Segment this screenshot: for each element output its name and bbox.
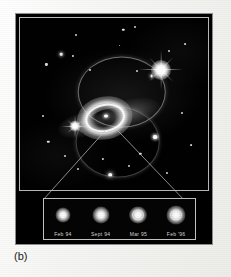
bright-star-left	[61, 112, 89, 140]
figure-panel-b: Feb 94Sept 94Mar 95Feb '96 (b)	[0, 0, 231, 277]
field-star	[42, 115, 44, 117]
field-star	[150, 75, 153, 78]
field-star	[77, 168, 79, 170]
inset-epoch-cell: Mar 95	[120, 199, 158, 239]
field-star	[119, 45, 121, 47]
field-star	[60, 53, 63, 56]
field-star	[134, 26, 136, 28]
field-star	[128, 165, 130, 167]
field-star	[166, 172, 168, 174]
field-star	[109, 173, 112, 176]
debris-blob-ring	[132, 210, 144, 221]
inset-epoch-cell: Feb 94	[44, 199, 82, 239]
supernova-debris-blob	[92, 207, 109, 224]
sky-field	[20, 18, 208, 190]
bright-star-upper-right	[139, 48, 183, 92]
field-star	[185, 43, 187, 45]
field-star	[75, 34, 77, 36]
debris-blob-ring	[170, 210, 182, 221]
supernova-debris-knot	[104, 115, 108, 118]
inset-epoch-cell: Feb '96	[157, 199, 195, 239]
field-star	[190, 144, 192, 146]
inset-epoch-label: Sept 94	[82, 231, 120, 237]
star-core	[69, 121, 80, 132]
inset-epoch-row: Feb 94Sept 94Mar 95Feb '96	[44, 199, 195, 239]
field-star	[64, 155, 66, 157]
inset-epoch-label: Feb 94	[44, 231, 82, 237]
star-core	[151, 60, 171, 80]
inset-epoch-label: Feb '96	[157, 231, 195, 237]
supernova-debris-blob	[55, 208, 70, 223]
field-star	[181, 112, 183, 114]
field-star	[89, 69, 91, 71]
inset-time-series-panel: Feb 94Sept 94Mar 95Feb '96	[43, 198, 196, 240]
inset-epoch-label: Mar 95	[120, 231, 158, 237]
inset-epoch-cell: Sept 94	[82, 199, 120, 239]
sky-image-frame	[19, 17, 209, 191]
field-star	[168, 50, 170, 52]
figure-caption: (b)	[14, 250, 27, 262]
field-star	[136, 70, 138, 72]
